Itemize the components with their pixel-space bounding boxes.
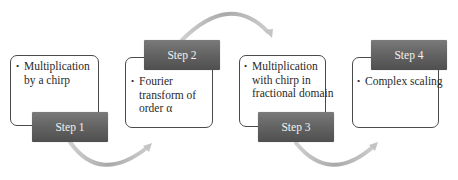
arrow-step1-to-step2	[70, 142, 152, 165]
step-1-line-1: Multiplication	[24, 60, 90, 72]
arrow-step2-to-step3	[182, 14, 273, 40]
step-4-text: Complex scaling	[357, 75, 436, 89]
step-1-line-2: by a chirp	[24, 74, 70, 86]
arrow-step3-to-step4	[296, 142, 378, 165]
step-2-label: Step 2	[144, 40, 220, 70]
step-3-text: Multiplication with chirp in fractional …	[244, 60, 323, 101]
step-2-line-1: Fourier	[139, 75, 173, 87]
step-4-label: Step 4	[371, 40, 447, 70]
step-2-line-2: transform of	[139, 89, 196, 101]
step-3-label: Step 3	[258, 112, 334, 142]
step-1-text: Multiplication by a chirp	[16, 60, 94, 87]
step-2-text: Fourier transform of order α	[131, 75, 208, 116]
step-3-line-3: fractional domain	[252, 87, 333, 99]
step-2-line-3: order α	[139, 102, 172, 114]
step-3-line-1: Multiplication	[252, 60, 318, 72]
step-4-line-1: Complex scaling	[365, 75, 443, 87]
step-3-line-2: with chirp in	[252, 74, 311, 86]
step-1-label: Step 1	[32, 112, 108, 142]
